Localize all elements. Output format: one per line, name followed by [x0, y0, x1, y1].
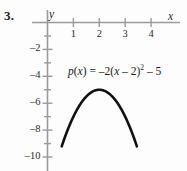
x-tick-label-3: 3 — [118, 28, 132, 39]
y-tick-label--10: –10 — [15, 150, 41, 161]
equation-inner-term: – 2) — [119, 65, 140, 77]
coordinate-plane — [0, 0, 187, 171]
parabola-curve — [62, 90, 137, 147]
equation-equals: ) = — [83, 65, 99, 77]
y-axis-label: y — [49, 8, 54, 20]
x-tick-label-1: 1 — [66, 28, 80, 39]
equation-annotation: p(x) = –2(x – 2)2 – 5 — [68, 65, 161, 77]
x-tick-label-4: 4 — [144, 28, 158, 39]
equation-constant: – 5 — [144, 65, 161, 77]
y-tick-label--8: –8 — [15, 123, 41, 134]
y-tick-label--6: –6 — [15, 96, 41, 107]
y-tick-label--2: –2 — [15, 42, 41, 53]
x-axis-label: x — [168, 10, 173, 22]
x-tick-label-2: 2 — [92, 28, 106, 39]
y-tick-label--4: –4 — [15, 69, 41, 80]
equation-coefficient: –2( — [99, 65, 114, 77]
parabola-figure: 3. y x 1234 –2–4–6–8–10 p(x) = –2(x – 2)… — [0, 0, 187, 171]
